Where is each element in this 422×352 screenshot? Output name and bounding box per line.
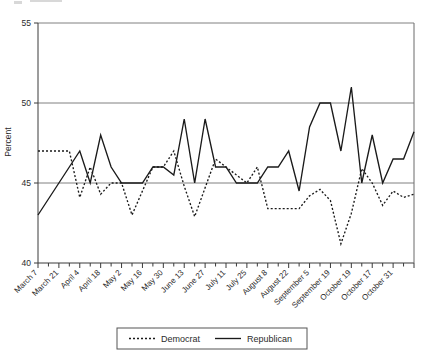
legend-group: DemocratRepublican xyxy=(129,334,292,344)
y-tick-group: 40455055 xyxy=(22,18,38,268)
y-tick-label: 45 xyxy=(22,178,32,188)
x-tick-label: April 18 xyxy=(77,268,103,294)
x-tick-label: May 16 xyxy=(119,268,144,293)
chart-svg: 40455055 Percent March 7March 21April 4A… xyxy=(0,0,422,352)
x-tick-label: June 27 xyxy=(180,268,207,295)
x-tick-label: July 11 xyxy=(204,268,228,292)
series-group xyxy=(38,87,414,244)
legend-label-republican: Republican xyxy=(247,334,292,344)
y-tick-label: 40 xyxy=(22,258,32,268)
series-line-republican xyxy=(38,87,414,215)
line-chart: 40455055 Percent March 7March 21April 4A… xyxy=(0,0,422,352)
legend-label-democrat: Democrat xyxy=(161,334,201,344)
top-artifact-2 xyxy=(30,0,62,2)
top-artifact xyxy=(14,1,22,4)
gridlines xyxy=(38,23,414,183)
y-axis-label: Percent xyxy=(3,127,13,157)
x-axis-labels: March 7March 21April 4April 18May 2May 1… xyxy=(13,268,395,310)
y-tick-label: 50 xyxy=(22,98,32,108)
x-tick-group xyxy=(38,263,414,268)
y-tick-label: 55 xyxy=(22,18,32,28)
